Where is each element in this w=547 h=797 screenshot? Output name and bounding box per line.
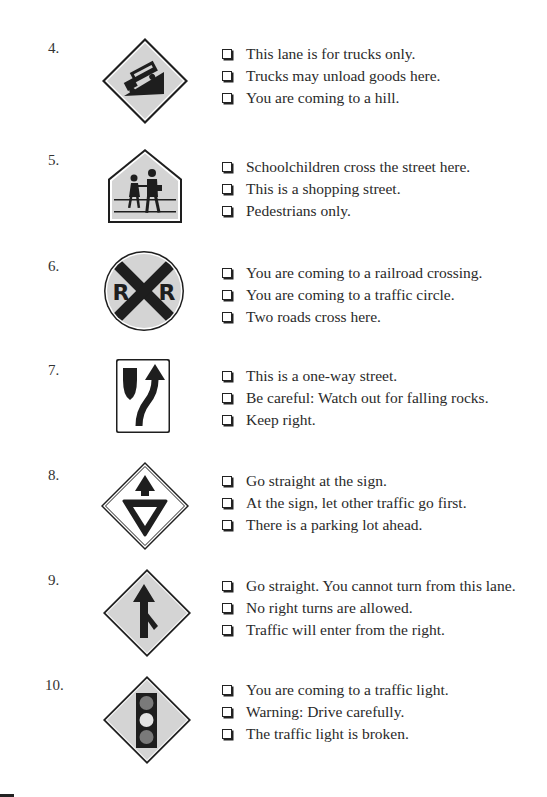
- answer-option[interactable]: The traffic light is broken.: [222, 723, 449, 745]
- option-label: The traffic light is broken.: [246, 725, 409, 742]
- checkbox[interactable]: [222, 184, 232, 194]
- option-label: This lane is for trucks only.: [246, 45, 415, 62]
- answer-option[interactable]: You are coming to a traffic circle.: [222, 284, 482, 306]
- checkbox[interactable]: [222, 581, 232, 591]
- answer-options: Go straight. You cannot turn from this l…: [222, 575, 516, 641]
- checkbox[interactable]: [222, 162, 232, 172]
- option-label: Two roads cross here.: [246, 308, 381, 325]
- option-label: This is a shopping street.: [246, 180, 401, 197]
- answer-option[interactable]: You are coming to a traffic light.: [222, 679, 449, 701]
- answer-option[interactable]: Warning: Drive carefully.: [222, 701, 449, 723]
- answer-option[interactable]: No right turns are allowed.: [222, 597, 516, 619]
- answer-options: You are coming to a railroad crossing. Y…: [222, 262, 482, 328]
- checkbox[interactable]: [222, 71, 232, 81]
- answer-options: This lane is for trucks only. Trucks may…: [222, 43, 440, 109]
- answer-option[interactable]: You are coming to a hill.: [222, 87, 440, 109]
- traffic-light-sign-icon: [102, 675, 192, 765]
- yield-ahead-sign-icon: [100, 461, 190, 551]
- answer-option[interactable]: Go straight. You cannot turn from this l…: [222, 575, 516, 597]
- option-label: Pedestrians only.: [246, 202, 351, 219]
- checkbox[interactable]: [222, 625, 232, 635]
- option-label: Be careful: Watch out for falling rocks.: [246, 389, 489, 406]
- option-label: Traffic will enter from the right.: [246, 621, 445, 638]
- checkbox[interactable]: [222, 290, 232, 300]
- option-label: Go straight at the sign.: [246, 472, 387, 489]
- question-number: 4.: [48, 40, 59, 57]
- checkbox[interactable]: [222, 206, 232, 216]
- truck-hill-sign-icon: [100, 36, 190, 126]
- checkbox[interactable]: [222, 49, 232, 59]
- answer-option[interactable]: This is a shopping street.: [222, 178, 470, 200]
- checkbox[interactable]: [222, 476, 232, 486]
- svg-text:R: R: [113, 280, 130, 305]
- checkbox[interactable]: [222, 268, 232, 278]
- option-label: This is a one-way street.: [246, 367, 397, 384]
- keep-right-sign-icon: [115, 358, 171, 434]
- checkbox[interactable]: [222, 498, 232, 508]
- checkbox[interactable]: [222, 415, 232, 425]
- checkbox[interactable]: [222, 729, 232, 739]
- checkbox[interactable]: [222, 312, 232, 322]
- answer-options: You are coming to a traffic light. Warni…: [222, 679, 449, 745]
- answer-option[interactable]: Two roads cross here.: [222, 306, 482, 328]
- answer-option[interactable]: There is a parking lot ahead.: [222, 514, 467, 536]
- option-label: You are coming to a traffic light.: [246, 681, 449, 698]
- answer-option[interactable]: Be careful: Watch out for falling rocks.: [222, 387, 489, 409]
- merge-sign-icon: [102, 568, 192, 658]
- question-number: 10.: [45, 677, 64, 694]
- option-label: You are coming to a hill.: [246, 89, 399, 106]
- answer-option[interactable]: Go straight at the sign.: [222, 470, 467, 492]
- answer-options: Go straight at the sign. At the sign, le…: [222, 470, 467, 536]
- checkbox[interactable]: [222, 707, 232, 717]
- answer-option[interactable]: This lane is for trucks only.: [222, 43, 440, 65]
- answer-option[interactable]: This is a one-way street.: [222, 365, 489, 387]
- option-label: No right turns are allowed.: [246, 599, 413, 616]
- checkbox[interactable]: [222, 93, 232, 103]
- answer-option[interactable]: At the sign, let other traffic go first.: [222, 492, 467, 514]
- option-label: You are coming to a traffic circle.: [246, 286, 455, 303]
- svg-text:R: R: [159, 280, 176, 305]
- railroad-crossing-sign-icon: R R: [102, 249, 186, 333]
- answer-option[interactable]: Keep right.: [222, 409, 489, 431]
- checkbox[interactable]: [222, 371, 232, 381]
- option-label: Go straight. You cannot turn from this l…: [246, 577, 516, 594]
- option-label: Keep right.: [246, 411, 316, 428]
- answer-option[interactable]: Schoolchildren cross the street here.: [222, 156, 470, 178]
- answer-options: Schoolchildren cross the street here. Th…: [222, 156, 470, 222]
- question-number: 7.: [48, 362, 59, 379]
- option-label: You are coming to a railroad crossing.: [246, 264, 482, 281]
- answer-options: This is a one-way street. Be careful: Wa…: [222, 365, 489, 431]
- answer-option[interactable]: Traffic will enter from the right.: [222, 619, 516, 641]
- checkbox[interactable]: [222, 520, 232, 530]
- option-label: Warning: Drive carefully.: [246, 703, 404, 720]
- option-label: At the sign, let other traffic go first.: [246, 494, 467, 511]
- option-label: There is a parking lot ahead.: [246, 516, 422, 533]
- answer-option[interactable]: Pedestrians only.: [222, 200, 470, 222]
- answer-option[interactable]: Trucks may unload goods here.: [222, 65, 440, 87]
- checkbox[interactable]: [222, 603, 232, 613]
- question-number: 5.: [48, 152, 59, 169]
- checkbox[interactable]: [222, 393, 232, 403]
- question-number: 6.: [48, 258, 59, 275]
- checkbox[interactable]: [222, 685, 232, 695]
- question-number: 8.: [48, 467, 59, 484]
- option-label: Trucks may unload goods here.: [246, 67, 440, 84]
- school-crossing-sign-icon: [106, 147, 184, 225]
- answer-option[interactable]: You are coming to a railroad crossing.: [222, 262, 482, 284]
- option-label: Schoolchildren cross the street here.: [246, 158, 470, 175]
- question-number: 9.: [48, 572, 59, 589]
